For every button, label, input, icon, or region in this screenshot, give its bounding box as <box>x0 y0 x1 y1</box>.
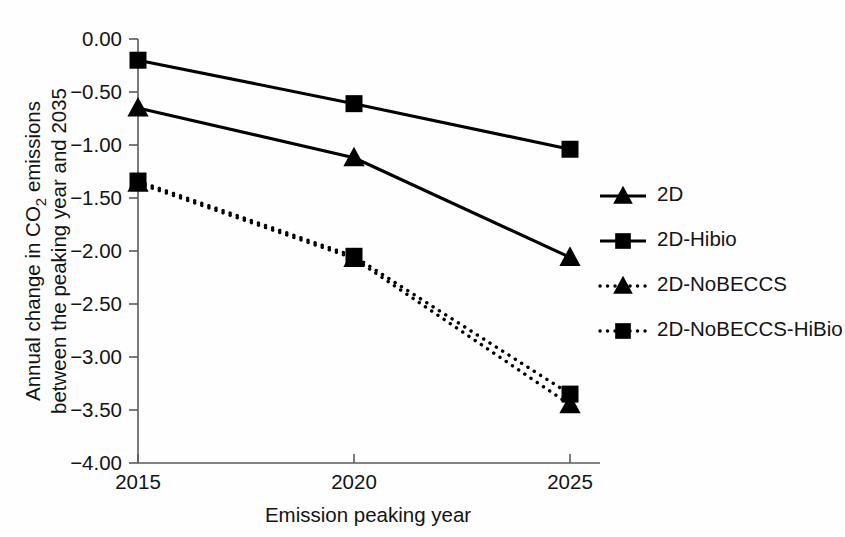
y-tick-label: −1.00 <box>70 133 122 156</box>
data-point-square-marker <box>346 248 363 265</box>
series-line <box>138 183 570 405</box>
data-point-square-marker <box>130 173 147 190</box>
chart-figure: 0.00−0.50−1.00−1.50−2.00−2.50−3.00−3.50−… <box>0 0 845 537</box>
legend-label: 2D-Hibio <box>657 227 737 250</box>
data-point-square-marker <box>562 141 579 158</box>
series-line <box>138 108 570 257</box>
x-tick-label: 2025 <box>547 470 593 493</box>
series-2d <box>127 97 580 266</box>
x-axis-ticks: 201520202025 <box>115 454 593 493</box>
legend-label: 2D-NoBECCS-HiBio <box>657 317 843 340</box>
y-tick-label: −3.50 <box>70 398 122 421</box>
legend-item-2d[interactable]: 2D <box>600 182 683 205</box>
series-2d-nobeccs-hibio <box>130 173 579 403</box>
legend-item-2d-hibio[interactable]: 2D-Hibio <box>600 227 737 250</box>
y-axis-title-suffix: emissions <box>21 101 44 198</box>
y-axis-title-line2: between the peaking year and 2035 <box>47 88 70 414</box>
legend-item-2d-nobeccs-hibio[interactable]: 2D-NoBECCS-HiBio <box>600 317 843 340</box>
series-2d-hibio <box>130 52 579 158</box>
legend-item-2d-nobeccs[interactable]: 2D-NoBECCS <box>600 272 787 295</box>
data-point-square-marker <box>615 323 631 339</box>
y-axis-title-prefix: Annual change in CO <box>21 206 44 401</box>
line-chart: 0.00−0.50−1.00−1.50−2.00−2.50−3.00−3.50−… <box>0 0 845 537</box>
y-axis-title: Annual change in CO2 emissions between t… <box>21 88 70 414</box>
y-tick-label: 0.00 <box>82 27 122 50</box>
x-axis-title: Emission peaking year <box>265 503 471 526</box>
y-tick-label: −2.00 <box>70 239 122 262</box>
data-point-square-marker <box>615 233 631 249</box>
data-point-square-marker <box>562 386 579 403</box>
data-point-square-marker <box>346 95 363 112</box>
legend-label: 2D-NoBECCS <box>657 272 787 295</box>
series-group <box>127 52 580 414</box>
chart-legend: 2D2D-Hibio2D-NoBECCS2D-NoBECCS-HiBio <box>600 182 843 340</box>
x-tick-label: 2015 <box>115 470 161 493</box>
y-tick-label: −1.50 <box>70 186 122 209</box>
legend-label: 2D <box>657 182 683 205</box>
y-axis-ticks: 0.00−0.50−1.00−1.50−2.00−2.50−3.00−3.50−… <box>70 27 138 474</box>
data-point-square-marker <box>130 52 147 69</box>
y-tick-label: −3.00 <box>70 345 122 368</box>
y-axis-title-line1: Annual change in CO2 emissions <box>21 101 49 401</box>
data-point-triangle-marker <box>127 97 148 117</box>
y-tick-label: −2.50 <box>70 292 122 315</box>
axes <box>138 39 600 463</box>
series-2d-nobeccs <box>127 172 580 413</box>
y-tick-label: −0.50 <box>70 80 122 103</box>
x-tick-label: 2020 <box>331 470 377 493</box>
data-point-triangle-marker <box>559 246 580 266</box>
